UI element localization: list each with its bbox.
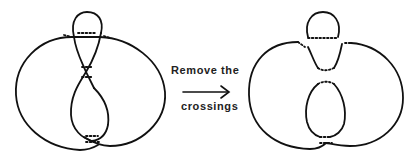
arrow-label-bottom: crossings <box>181 100 238 112</box>
arrow-right <box>183 86 229 98</box>
right-smoothed-diagram <box>249 12 403 149</box>
arrow-label-top: Remove the <box>171 64 239 76</box>
knot-figure: Remove the crossings <box>0 0 417 158</box>
left-knot <box>16 12 165 150</box>
knot-diagram-svg <box>0 0 417 158</box>
